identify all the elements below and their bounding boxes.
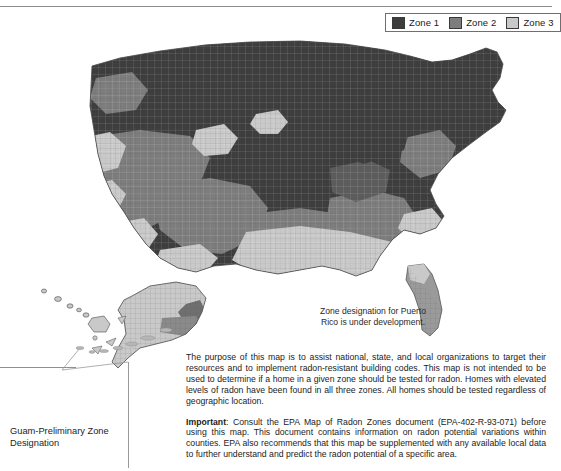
important-paragraph: Important: Consult the EPA Map of Radon … bbox=[186, 417, 546, 461]
map-description-text: The purpose of this map is to assist nat… bbox=[186, 352, 546, 460]
guam-top-rule bbox=[0, 367, 76, 368]
guam-divider-line bbox=[128, 362, 129, 468]
puerto-rico-note: Zone designation for Puerto Rico is unde… bbox=[311, 306, 435, 328]
puerto-rico-region bbox=[470, 308, 490, 316]
us-radon-zone-map-svg bbox=[0, 18, 552, 378]
important-label: Important bbox=[186, 417, 226, 427]
continental-us-region bbox=[78, 36, 520, 286]
purpose-paragraph: The purpose of this map is to assist nat… bbox=[186, 352, 546, 407]
hawaii-inset-region bbox=[41, 289, 110, 332]
guam-caption: Guam-Preliminary Zone Designation bbox=[10, 425, 126, 449]
important-body: : Consult the EPA Map of Radon Zones doc… bbox=[186, 417, 546, 460]
radon-zone-map-graphic bbox=[0, 18, 552, 378]
top-divider bbox=[0, 6, 552, 7]
